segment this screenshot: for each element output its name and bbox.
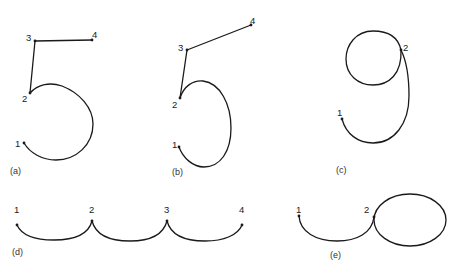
panel-d-label-3: 3 xyxy=(164,204,169,215)
panel-e-arc xyxy=(299,216,374,241)
panel-d-point-4 xyxy=(241,224,244,227)
panel-a-label-3: 3 xyxy=(26,32,31,43)
panel-a: 1 2 3 4 (a) xyxy=(10,29,97,176)
panel-a-vertical-stroke xyxy=(30,41,35,93)
panel-b-label-1: 1 xyxy=(172,139,177,150)
panel-a-label-1: 1 xyxy=(15,138,20,149)
panel-d-label-1: 1 xyxy=(14,204,19,215)
panel-b-point-2 xyxy=(179,97,182,100)
panel-c-point-1 xyxy=(341,118,344,121)
panel-c-tail-stroke xyxy=(342,50,409,143)
panel-c-caption: (c) xyxy=(336,165,347,175)
panel-d-arc-3 xyxy=(167,221,242,241)
panel-a-top-stroke xyxy=(35,40,92,41)
panel-b-top-stroke xyxy=(187,25,251,50)
panel-d-point-3 xyxy=(166,220,169,223)
panel-a-caption: (a) xyxy=(10,166,21,176)
panel-c-label-1: 1 xyxy=(337,107,342,118)
panel-b-caption: (b) xyxy=(172,167,183,177)
panel-a-loop-stroke xyxy=(24,84,93,160)
figure-canvas: 1 2 3 4 (a) 1 2 3 4 (b) 1 2 (c) xyxy=(0,0,458,270)
panel-e-loop xyxy=(374,194,446,246)
panel-b-point-1 xyxy=(178,146,181,149)
panel-e-label-1: 1 xyxy=(296,204,301,215)
panel-d: 1 2 3 4 (d) xyxy=(12,204,244,257)
panel-c: 1 2 (c) xyxy=(336,31,409,175)
panel-d-arc-1 xyxy=(17,221,92,240)
panel-d-caption: (d) xyxy=(12,247,23,257)
panel-a-label-2: 2 xyxy=(22,93,27,104)
panel-e-point-2 xyxy=(373,216,376,219)
panel-d-point-2 xyxy=(91,220,94,223)
panel-a-point-3 xyxy=(34,40,37,43)
panel-b-label-3: 3 xyxy=(178,42,183,53)
panel-c-circle-stroke xyxy=(346,31,401,85)
panel-e: 1 2 (e) xyxy=(296,194,446,260)
panel-e-point-1 xyxy=(298,215,301,218)
panel-a-point-2 xyxy=(29,92,32,95)
panel-e-label-2: 2 xyxy=(364,204,369,215)
panel-c-point-2 xyxy=(400,49,403,52)
panel-e-caption: (e) xyxy=(330,250,341,260)
panel-b-label-2: 2 xyxy=(172,99,177,110)
panel-d-point-1 xyxy=(16,224,19,227)
panel-b-loop-stroke xyxy=(179,81,231,167)
panel-a-point-1 xyxy=(23,142,26,145)
panel-d-arc-2 xyxy=(92,221,167,241)
panel-b-label-4: 4 xyxy=(250,15,255,26)
panel-d-label-2: 2 xyxy=(89,204,94,215)
panel-d-label-4: 4 xyxy=(239,204,244,215)
panel-a-label-4: 4 xyxy=(92,29,97,40)
panel-b: 1 2 3 4 (b) xyxy=(172,15,255,177)
panel-b-point-3 xyxy=(186,49,189,52)
panel-c-label-2: 2 xyxy=(403,42,408,53)
